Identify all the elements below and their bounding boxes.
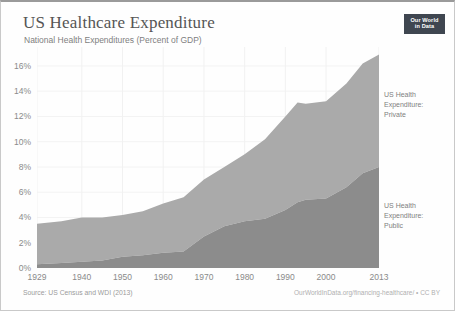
- x-axis-tick: 1970: [184, 272, 224, 282]
- x-axis-tick: 1940: [62, 272, 102, 282]
- source-note: Source: US Census and WDI (2013): [23, 289, 133, 296]
- y-axis-tick: 8%: [1, 162, 31, 172]
- chart-plot-area: [37, 47, 379, 268]
- x-axis-tick: 1960: [143, 272, 183, 282]
- x-axis-tick: 1980: [225, 272, 265, 282]
- chart-frame: US Healthcare Expenditure National Healt…: [0, 0, 455, 311]
- badge-line-2: in Data: [415, 24, 434, 30]
- y-axis-tick: 12%: [1, 111, 31, 121]
- x-axis-tick: 2000: [306, 272, 346, 282]
- stacked-area-chart: [37, 47, 379, 268]
- series-label-private: US Health Expenditure: Private: [384, 90, 455, 120]
- our-world-in-data-logo[interactable]: Our World in Data: [404, 14, 445, 34]
- y-axis-tick: 10%: [1, 137, 31, 147]
- x-axis-tick: 1929: [17, 272, 57, 282]
- series-label-public: US Health Expenditure: Public: [384, 201, 455, 231]
- x-axis-tick: 1990: [265, 272, 305, 282]
- x-axis-tick: 2013: [359, 272, 399, 282]
- y-axis-tick: 2%: [1, 238, 31, 248]
- chart-subtitle: National Health Expenditures (Percent of…: [24, 35, 202, 45]
- y-axis-tick: 4%: [1, 212, 31, 222]
- y-axis-tick: 6%: [1, 187, 31, 197]
- attribution-note[interactable]: OurWorldInData.org/financing-healthcare/…: [294, 289, 440, 296]
- y-axis-tick: 14%: [1, 86, 31, 96]
- x-axis-tick: 1950: [103, 272, 143, 282]
- y-axis-tick: 16%: [1, 61, 31, 71]
- page-title: US Healthcare Expenditure: [23, 13, 215, 33]
